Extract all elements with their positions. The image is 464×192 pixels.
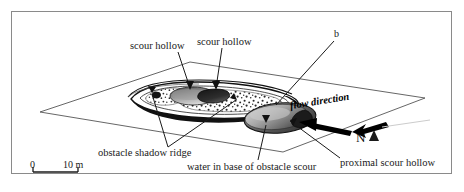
label-obstacle-marker-b: b xyxy=(334,29,339,39)
label-scour-hollow-right: scour hollow xyxy=(197,37,252,48)
label-water-in-base-of-obstacle-scour: water in base of obstacle scour xyxy=(187,162,316,173)
label-proximal-scour-hollow: proximal scour hollow xyxy=(340,158,435,169)
label-north: N xyxy=(356,130,365,146)
label-scour-hollow-left: scour hollow xyxy=(130,41,185,52)
scale-bar-end-label: 10 m xyxy=(63,159,83,170)
figure-panel: scour hollow scour hollow b flow directi… xyxy=(0,0,464,192)
label-obstacle-shadow-ridge: obstacle shadow ridge xyxy=(98,148,191,159)
scale-bar-start-label: 0 xyxy=(30,159,35,170)
